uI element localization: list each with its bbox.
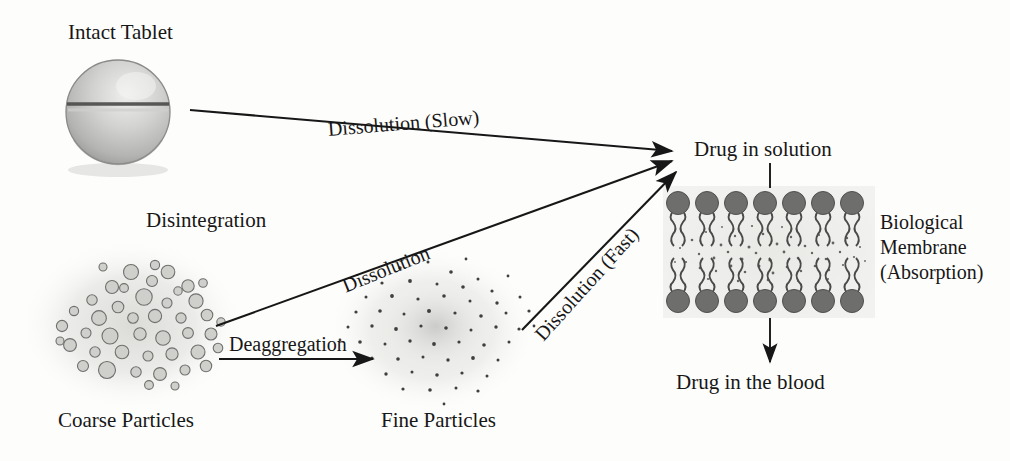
arrow-label-disintegration: Disintegration bbox=[146, 208, 266, 233]
membrane-label-line-1: Biological bbox=[880, 210, 983, 235]
biological-membrane-graphic bbox=[663, 186, 875, 318]
membrane-label-line-2: Membrane bbox=[880, 235, 983, 260]
node-label-biological-membrane: Biological Membrane (Absorption) bbox=[880, 210, 983, 285]
node-label-fine-particles: Fine Particles bbox=[381, 408, 496, 433]
intact-tablet-graphic bbox=[66, 60, 170, 177]
coarse-particles-graphic bbox=[17, 237, 247, 413]
node-label-drug-in-solution: Drug in solution bbox=[694, 137, 832, 162]
node-label-intact-tablet: Intact Tablet bbox=[68, 20, 173, 45]
node-label-drug-in-the-blood: Drug in the blood bbox=[676, 370, 825, 395]
arrow-label-deaggregation: Deaggregation bbox=[229, 333, 347, 356]
diagram-canvas: Intact Tablet Disintegration Coarse Part… bbox=[0, 0, 1010, 461]
arrow-dissolution-fast bbox=[522, 172, 676, 330]
node-label-coarse-particles: Coarse Particles bbox=[58, 408, 194, 433]
membrane-label-line-3: (Absorption) bbox=[880, 260, 983, 285]
